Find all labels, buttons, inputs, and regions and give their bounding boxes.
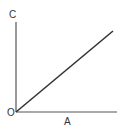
origin-label: O [7,108,15,118]
x-axis-label: A [64,117,71,127]
y-axis-label: C [9,10,16,20]
line-diagram: C O A [0,0,138,130]
diagonal-line [16,31,113,112]
diagram-canvas [0,0,138,130]
